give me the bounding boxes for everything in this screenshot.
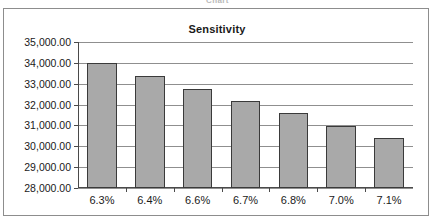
x-axis-label: 6.7% [233,194,258,206]
bar [183,89,213,188]
x-axis-tick [317,188,318,192]
x-axis-label: 6.3% [89,194,114,206]
y-axis-label: 29,000.00 [24,161,71,173]
x-axis-label: 7.1% [377,194,402,206]
clipped-caption: Chart [0,0,435,4]
y-axis-label: 31,000.00 [24,119,71,131]
y-axis-label: 33,000.00 [24,78,71,90]
bar [374,138,404,188]
bar [87,63,117,188]
x-axis-label: 6.8% [281,194,306,206]
gridline [78,188,413,189]
y-axis-label: 28,000.00 [24,182,71,194]
gridline [78,42,413,43]
gridline [78,63,413,64]
chart-frame: Sensitivity 35,000.0034,000.0033,000.003… [3,8,429,216]
x-axis-tick [222,188,223,192]
y-axis-label: 32,000.00 [24,99,71,111]
bar [326,126,356,188]
x-axis-label: 7.0% [329,194,354,206]
bar [135,76,165,188]
bar [279,113,309,188]
y-axis-label: 34,000.00 [24,57,71,69]
x-axis-tick [126,188,127,192]
plot-area: 35,000.0034,000.0033,000.0032,000.0031,0… [78,42,413,188]
y-axis-label: 30,000.00 [24,140,71,152]
x-axis-tick [174,188,175,192]
x-axis-label: 6.4% [137,194,162,206]
x-axis-label: 6.6% [185,194,210,206]
gridline [78,84,413,85]
y-axis-line [78,42,79,188]
bar [231,101,261,188]
x-axis-tick [365,188,366,192]
y-axis-tick [74,188,78,189]
y-axis-label: 35,000.00 [24,36,71,48]
x-axis-tick [269,188,270,192]
chart-title: Sensitivity [4,23,430,35]
